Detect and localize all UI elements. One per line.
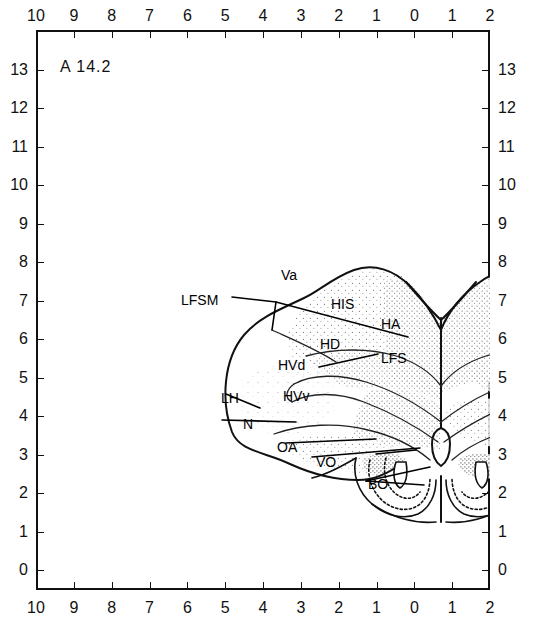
structure-label-hvv: HVv	[283, 389, 309, 403]
x-axis-label-top: 1	[448, 8, 457, 24]
y-axis-label-right: 9	[498, 216, 507, 232]
x-axis-label-bottom: 6	[183, 600, 192, 616]
structure-label-lfsm: LFSM	[181, 293, 218, 307]
x-axis-label-bottom: 10	[27, 600, 45, 616]
x-axis-label-top: 7	[145, 8, 154, 24]
x-axis-label-top: 4	[259, 8, 268, 24]
y-axis-label-left: 9	[19, 216, 28, 232]
y-axis-label-right: 3	[498, 447, 507, 463]
y-axis-label-right: 5	[498, 370, 507, 386]
x-axis-label-bottom: 3	[296, 600, 305, 616]
x-axis-label-top: 2	[334, 8, 343, 24]
structure-label-va: Va	[281, 268, 297, 282]
y-axis-label-left: 5	[19, 370, 28, 386]
y-axis-label-left: 6	[19, 331, 28, 347]
structure-label-n: N	[243, 417, 253, 431]
x-axis-label-top: 1	[372, 8, 381, 24]
y-axis-label-right: 12	[498, 100, 516, 116]
structure-label-ha: HA	[381, 317, 400, 331]
y-axis-label-right: 10	[498, 177, 516, 193]
x-axis-label-bottom: 5	[221, 600, 230, 616]
y-axis-label-right: 2	[498, 485, 507, 501]
structure-label-hd: HD	[320, 337, 340, 351]
y-axis-label-right: 4	[498, 408, 507, 424]
y-axis-label-left: 12	[10, 100, 28, 116]
x-axis-label-top: 6	[183, 8, 192, 24]
x-axis-label-top: 8	[107, 8, 116, 24]
y-axis-label-right: 1	[498, 524, 507, 540]
bo-blob-right	[475, 462, 488, 488]
structure-label-his: HIS	[331, 297, 354, 311]
y-axis-label-right: 0	[498, 562, 507, 578]
x-axis-label-bottom: 7	[145, 600, 154, 616]
y-axis-label-left: 10	[10, 177, 28, 193]
x-axis-label-bottom: 1	[448, 600, 457, 616]
structure-label-hvd: HVd	[278, 358, 305, 372]
y-axis-label-right: 8	[498, 254, 507, 270]
x-axis-label-bottom: 1	[372, 600, 381, 616]
y-axis-label-left: 0	[19, 562, 28, 578]
structure-label-bo: BO	[368, 477, 388, 491]
structure-label-vo: VO	[316, 455, 336, 469]
y-axis-label-left: 4	[19, 408, 28, 424]
brain-section-drawing	[36, 30, 490, 590]
y-axis-label-left: 3	[19, 447, 28, 463]
y-axis-label-left: 7	[19, 293, 28, 309]
y-axis-label-left: 1	[19, 524, 28, 540]
x-axis-label-top: 0	[410, 8, 419, 24]
x-axis-label-top: 10	[27, 8, 45, 24]
y-axis-label-left: 2	[19, 485, 28, 501]
x-axis-label-top: 5	[221, 8, 230, 24]
structure-label-lfs: LFS	[381, 351, 407, 365]
y-axis-label-left: 13	[10, 62, 28, 78]
x-axis-label-bottom: 9	[69, 600, 78, 616]
x-axis-label-bottom: 0	[410, 600, 419, 616]
brain-atlas-figure: A 14.2 101099887766554433221100112213131…	[0, 0, 536, 633]
y-axis-label-right: 7	[498, 293, 507, 309]
y-axis-label-right: 13	[498, 62, 516, 78]
x-axis-label-top: 9	[69, 8, 78, 24]
structure-label-lh: LH	[221, 391, 239, 405]
structure-label-oa: OA	[277, 440, 297, 454]
x-axis-label-bottom: 2	[334, 600, 343, 616]
leader-lfsm-b	[272, 302, 276, 330]
x-axis-label-top: 2	[486, 8, 495, 24]
x-axis-label-bottom: 2	[486, 600, 495, 616]
y-axis-label-right: 11	[498, 139, 515, 155]
x-axis-label-bottom: 4	[259, 600, 268, 616]
y-axis-label-right: 6	[498, 331, 507, 347]
x-axis-label-bottom: 8	[107, 600, 116, 616]
x-axis-label-top: 3	[296, 8, 305, 24]
y-axis-label-left: 11	[11, 139, 28, 155]
y-axis-label-left: 8	[19, 254, 28, 270]
